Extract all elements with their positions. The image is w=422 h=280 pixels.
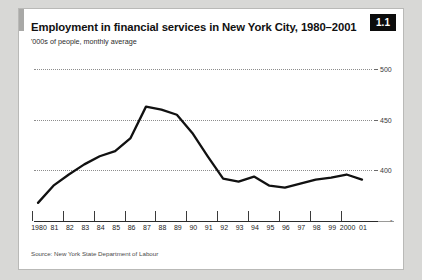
x-axis-label-91: 91: [205, 224, 213, 231]
x-axis-label-92: 92: [220, 224, 228, 231]
series-line-group: [34, 59, 372, 211]
y-tick-500: [374, 69, 378, 70]
x-tick-88: [155, 211, 156, 221]
y-axis-label-500: 500: [380, 66, 392, 73]
x-axis-label-89: 89: [174, 224, 182, 231]
y-tick-400: [374, 170, 378, 171]
x-axis-label-96: 96: [282, 224, 290, 231]
x-tick-82: [63, 211, 64, 221]
x-axis-label-98: 98: [313, 224, 321, 231]
chart-title: Employment in financial services in New …: [31, 21, 351, 34]
y-axis-label-450: 450: [380, 116, 392, 123]
x-tick-2000: [341, 211, 342, 221]
x-axis-baseline: [34, 221, 378, 222]
x-axis-label-87: 87: [143, 224, 151, 231]
x-tick-86: [125, 211, 126, 221]
x-axis-label-85: 85: [112, 224, 120, 231]
x-axis-label-86: 86: [128, 224, 136, 231]
x-tick-94: [248, 211, 249, 221]
x-axis-label-88: 88: [159, 224, 167, 231]
x-axis-label-1980: 1980: [31, 224, 47, 231]
x-axis-label-2000: 2000: [340, 224, 356, 231]
x-axis-labels: 1980818283848586878889909192939495969798…: [34, 224, 386, 236]
series-line-employment: [38, 107, 362, 203]
x-axis-label-94: 94: [251, 224, 259, 231]
y-tick-450: [374, 120, 378, 121]
x-tick-98: [310, 211, 311, 221]
source-note: Source: New York State Department of Lab…: [31, 250, 158, 257]
x-axis-label-83: 83: [81, 224, 89, 231]
x-axis: •: [34, 211, 386, 223]
x-axis-label-99: 99: [328, 224, 336, 231]
x-tick-96: [279, 211, 280, 221]
x-axis-label-81: 81: [51, 224, 59, 231]
x-axis-label-84: 84: [97, 224, 105, 231]
figure-number-badge: 1.1: [370, 14, 396, 31]
plot-area: 400450500: [34, 59, 372, 211]
x-tick-84: [94, 211, 95, 221]
figure-edge-marker: [19, 9, 24, 31]
x-axis-label-90: 90: [189, 224, 197, 231]
x-axis-label-97: 97: [297, 224, 305, 231]
x-tick-90: [186, 211, 187, 221]
x-tick-1980: [32, 211, 33, 221]
y-axis-label-400: 400: [380, 167, 392, 174]
x-axis-label-82: 82: [66, 224, 74, 231]
x-tick-92: [217, 211, 218, 221]
x-axis-label-93: 93: [236, 224, 244, 231]
x-axis-label-01: 01: [359, 224, 367, 231]
figure-panel: 1.1 Employment in financial services in …: [18, 8, 404, 270]
x-axis-end-marker-icon: •: [390, 217, 392, 224]
x-axis-label-95: 95: [267, 224, 275, 231]
chart-subtitle: '000s of people, monthly average: [31, 37, 137, 46]
